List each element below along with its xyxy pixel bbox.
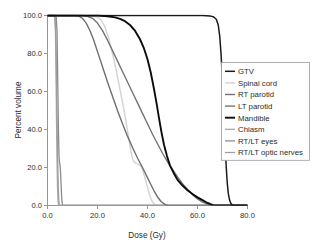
y-axis-title: Percent volume [14,81,23,138]
chart-legend[interactable]: GTVSpinal cordRT parotidLT parotidMandib… [222,63,310,161]
x-tick-label: 40.0 [140,211,155,220]
y-tick-label: 20.0 [27,163,42,172]
y-tick-label: 80.0 [27,49,42,58]
legend-item-label: GTV [238,67,255,76]
legend-item-label: Mandible [238,114,270,123]
legend-item-label: RT parotid [238,90,274,99]
x-tick-label: 60.0 [190,211,205,220]
y-tick-label: 60.0 [27,87,42,96]
legend-item-label: Spinal cord [238,79,277,88]
x-axis-title: Dose (Gy) [128,231,166,240]
x-tick-label: 20.0 [90,211,105,220]
y-tick-label: 100.0 [23,11,42,20]
legend-item-label: LT parotid [238,102,272,111]
x-tick-label: 0.0 [42,211,53,220]
legend-item-label: Chiasm [238,125,264,134]
y-tick-label: 40.0 [27,125,42,134]
legend-item-label: RT/LT optic nerves [238,148,303,157]
legend-item-label: RT/LT eyes [238,137,278,146]
chart-canvas: 0.020.040.060.080.0 0.020.040.060.080.01… [0,0,314,246]
y-tick-label: 0.0 [31,201,42,210]
dvh-chart: 0.020.040.060.080.0 0.020.040.060.080.01… [0,0,314,246]
x-tick-label: 80.0 [240,211,255,220]
